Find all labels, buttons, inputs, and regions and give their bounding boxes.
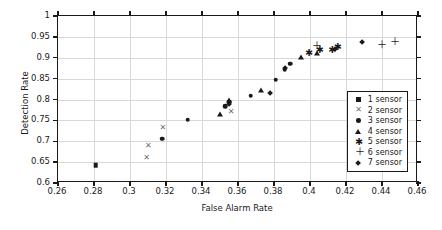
x-tick-label: 0.28 — [84, 186, 103, 196]
marker-glyph: ＋ — [377, 42, 383, 48]
legend-label: 3 sensor — [365, 116, 402, 125]
legend-item-2-sensor[interactable]: ✕2 sensor — [352, 105, 402, 116]
y-axis-tick — [416, 78, 421, 79]
y-tick-label: 0.8 — [0, 94, 50, 104]
y-tick-label: 0.6 — [0, 177, 50, 187]
y-axis-tick — [53, 57, 58, 58]
legend-label: 5 sensor — [365, 137, 402, 146]
data-point: ＋ — [377, 42, 383, 48]
legend-item-1-sensor[interactable]: 1 sensor — [352, 95, 402, 106]
x-tick-label: 0.38 — [264, 186, 283, 196]
y-axis-tick — [53, 120, 58, 121]
x-axis-tick — [201, 11, 202, 16]
data-point — [282, 66, 288, 72]
marker-glyph: ✕ — [145, 143, 151, 149]
marker-glyph: ＋ — [390, 39, 396, 45]
y-axis-tick — [416, 161, 421, 162]
y-tick-label: 0.7 — [0, 135, 50, 145]
x-axis-tick — [93, 181, 94, 186]
data-point — [274, 78, 279, 83]
y-axis-tick — [416, 99, 421, 100]
data-point — [258, 88, 264, 93]
gridline-horizontal — [58, 79, 416, 80]
legend-label: 2 sensor — [365, 106, 402, 115]
marker-glyph: ✕ — [159, 125, 165, 131]
x-axis-tick — [273, 11, 274, 16]
legend-item-6-sensor[interactable]: ＋6 sensor — [352, 147, 402, 158]
marker-glyph: ✱ — [355, 139, 361, 145]
gridline-vertical — [130, 16, 131, 181]
marker-glyph: ✕ — [143, 155, 149, 161]
x-tick-label: 0.26 — [48, 186, 67, 196]
gridline-vertical — [310, 16, 311, 181]
marker-glyph: ✕ — [228, 109, 234, 115]
data-point — [248, 93, 253, 98]
y-axis-tick — [53, 141, 58, 142]
legend-item-4-sensor[interactable]: 4 sensor — [352, 126, 402, 137]
gridline-horizontal — [58, 58, 416, 59]
x-axis-tick — [237, 11, 238, 16]
data-point: ＋ — [390, 39, 396, 45]
x-axis-tick — [309, 11, 310, 16]
gridline-vertical — [238, 16, 239, 181]
x-tick-label: 0.4 — [302, 186, 316, 196]
data-point: ✕ — [143, 155, 149, 161]
data-point — [359, 39, 365, 45]
legend-label: 4 sensor — [365, 127, 402, 136]
y-tick-label: 0.65 — [0, 156, 50, 166]
legend-marker-diamond-icon — [352, 158, 365, 169]
y-tick-label: 0.75 — [0, 114, 50, 124]
legend-label: 1 sensor — [365, 95, 402, 104]
x-axis-tick — [273, 181, 274, 186]
gridline-vertical — [274, 16, 275, 181]
y-axis-tick — [416, 15, 421, 16]
x-axis-tick — [201, 181, 202, 186]
x-axis-tick — [381, 11, 382, 16]
legend-marker-triangle-icon — [352, 126, 365, 137]
legend-marker-square-icon — [352, 95, 365, 106]
y-axis-tick — [416, 57, 421, 58]
data-point: ✱ — [305, 50, 311, 56]
data-point — [226, 101, 232, 107]
x-axis-tick — [129, 11, 130, 16]
x-axis-tick — [345, 11, 346, 16]
marker-glyph: ＋ — [312, 43, 318, 49]
scatter-chart-figure: Detection Rate False Alarm Rate 0.60.650… — [0, 0, 442, 230]
gridline-vertical — [166, 16, 167, 181]
data-point — [298, 55, 304, 60]
y-tick-label: 0.9 — [0, 52, 50, 62]
x-tick-label: 0.36 — [228, 186, 247, 196]
data-point — [288, 61, 293, 66]
y-axis-tick — [416, 141, 421, 142]
y-tick-label: 0.85 — [0, 73, 50, 83]
marker-glyph: ✕ — [355, 107, 361, 113]
legend: 1 sensor✕2 sensor3 sensor4 sensor✱5 sens… — [347, 91, 408, 173]
legend-marker-plus-icon: ＋ — [352, 147, 365, 158]
data-point — [160, 136, 165, 141]
legend-item-3-sensor[interactable]: 3 sensor — [352, 116, 402, 127]
data-point: ✕ — [159, 125, 165, 131]
plot-area: ✕✕✕✕✱✱✱✱＋＋＋ 1 sensor✕2 sensor3 sensor4 s… — [57, 15, 417, 182]
data-point — [332, 46, 338, 52]
data-point: ＋ — [312, 43, 318, 49]
x-axis-tick — [165, 11, 166, 16]
y-axis-tick — [53, 182, 58, 183]
x-axis-title: False Alarm Rate — [57, 203, 417, 213]
y-axis-tick — [53, 36, 58, 37]
x-tick-label: 0.34 — [192, 186, 211, 196]
x-axis-tick — [165, 181, 166, 186]
y-axis-tick — [53, 99, 58, 100]
y-axis-tick — [416, 120, 421, 121]
y-tick-label: 1 — [0, 10, 50, 20]
marker-glyph: ＋ — [355, 149, 361, 155]
x-tick-label: 0.46 — [408, 186, 427, 196]
gridline-vertical — [202, 16, 203, 181]
legend-item-7-sensor[interactable]: 7 sensor — [352, 158, 402, 169]
data-point — [217, 112, 223, 117]
legend-marker-circle-icon — [352, 116, 365, 127]
x-axis-tick — [129, 181, 130, 186]
y-axis-tick — [53, 78, 58, 79]
x-tick-label: 0.42 — [336, 186, 355, 196]
data-point — [185, 117, 190, 122]
x-axis-tick — [93, 11, 94, 16]
